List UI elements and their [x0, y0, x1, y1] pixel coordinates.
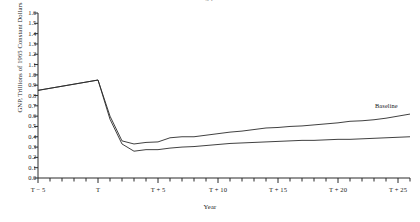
series-lines	[38, 80, 410, 151]
series-line	[38, 80, 410, 151]
x-axis-ticks	[38, 178, 410, 183]
axis-lines	[38, 13, 410, 178]
series-line	[38, 80, 410, 144]
y-axis-ticks	[34, 13, 38, 178]
chart-container: g p GNP, Trillions of 1965 Constant Doll…	[0, 0, 420, 222]
plot-area	[0, 0, 420, 222]
